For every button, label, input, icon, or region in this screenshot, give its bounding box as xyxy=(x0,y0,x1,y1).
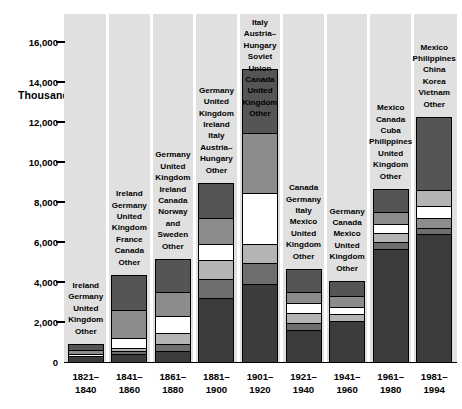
x-axis-tick-label: 1981–1994 xyxy=(412,370,456,396)
y-axis-tick-label: 16,000 xyxy=(29,37,58,48)
y-axis-tick-label: 14,000 xyxy=(29,77,58,88)
x-label-line: 1861– xyxy=(151,370,195,383)
x-label-line: 1900 xyxy=(195,383,239,396)
y-axis-tick-label: 10,000 xyxy=(29,157,58,168)
x-label-line: 1821– xyxy=(64,370,108,383)
x-label-line: 1941– xyxy=(325,370,369,383)
x-label-line: 1841– xyxy=(108,370,152,383)
x-axis-tick-label: 1861–1880 xyxy=(151,370,195,396)
y-axis-tick-label: 2,000 xyxy=(34,317,58,328)
x-axis-tick-label: 1941–1960 xyxy=(325,370,369,396)
y-axis-tick-label: 12,000 xyxy=(29,117,58,128)
y-axis: 02,0004,0006,0008,00010,00012,00014,0001… xyxy=(0,0,462,409)
y-axis-tick-label: 4,000 xyxy=(34,277,58,288)
x-label-line: 1960 xyxy=(325,383,369,396)
x-axis-tick-label: 1881–1900 xyxy=(195,370,239,396)
immigration-stacked-bar-chart: Thousands IrelandGermanyUnitedKingdomOth… xyxy=(0,0,462,409)
x-label-line: 1994 xyxy=(412,383,456,396)
x-label-line: 1881– xyxy=(195,370,239,383)
x-axis-tick-label: 1921–1940 xyxy=(282,370,326,396)
x-label-line: 1921– xyxy=(282,370,326,383)
x-label-line: 1901– xyxy=(238,370,282,383)
x-label-line: 1981– xyxy=(412,370,456,383)
x-label-line: 1940 xyxy=(282,383,326,396)
x-label-line: 1961– xyxy=(369,370,413,383)
x-label-line: 1880 xyxy=(151,383,195,396)
x-label-line: 1860 xyxy=(108,383,152,396)
y-axis-tick-label: 0 xyxy=(53,357,58,368)
x-label-line: 1840 xyxy=(64,383,108,396)
x-axis-tick-label: 1841–1860 xyxy=(108,370,152,396)
y-axis-tick-label: 6,000 xyxy=(34,237,58,248)
y-axis-tick-label: 8,000 xyxy=(34,197,58,208)
x-axis-tick-label: 1821–1840 xyxy=(64,370,108,396)
x-axis-tick-label: 1901–1920 xyxy=(238,370,282,396)
x-label-line: 1980 xyxy=(369,383,413,396)
x-axis-tick-label: 1961–1980 xyxy=(369,370,413,396)
x-label-line: 1920 xyxy=(238,383,282,396)
